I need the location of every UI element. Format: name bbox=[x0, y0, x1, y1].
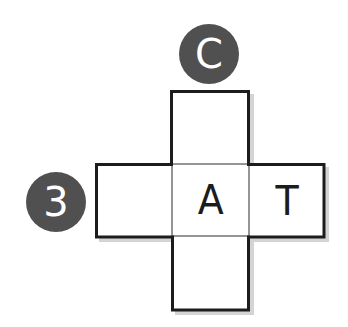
cell-center-label: A bbox=[197, 180, 223, 220]
cell-top bbox=[170, 90, 250, 164]
cell-left bbox=[95, 163, 172, 238]
badge-top: C bbox=[179, 24, 239, 84]
cell-bottom bbox=[171, 236, 250, 311]
cell-center: A bbox=[172, 164, 249, 236]
badge-top-label: C bbox=[195, 34, 223, 74]
cell-right-label: T bbox=[275, 181, 298, 221]
cube-net-diagram: A T C 3 bbox=[0, 0, 348, 327]
cell-right: T bbox=[249, 163, 325, 238]
badge-left-label: 3 bbox=[43, 182, 68, 222]
badge-left: 3 bbox=[26, 172, 86, 232]
